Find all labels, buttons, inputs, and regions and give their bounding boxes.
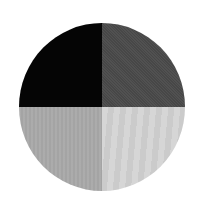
quadrant-top-right <box>102 23 185 107</box>
quadrant-circle <box>19 23 185 191</box>
figure-canvas <box>0 0 202 197</box>
quadrant-bottom-left <box>19 107 102 191</box>
quadrant-top-left <box>19 23 102 107</box>
quadrant-bottom-right <box>102 107 185 191</box>
